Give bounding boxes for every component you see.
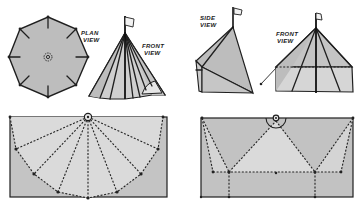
front-view-label-2: VIEW	[144, 50, 162, 56]
front-view-label-1: FRONT	[276, 31, 299, 37]
plan-view-label-2: VIEW	[83, 37, 101, 43]
side-view-label-2: VIEW	[200, 22, 218, 28]
plan-view-label-1: PLAN	[81, 30, 99, 36]
guy-peg	[260, 83, 263, 86]
side-end-wall	[196, 61, 202, 92]
wall-tent-pattern	[200, 115, 355, 198]
front-view-label-1: FRONT	[142, 43, 165, 49]
flag-icon	[125, 17, 134, 27]
bell-tent-plan-view: PLAN VIEW	[8, 16, 101, 99]
pole-hole-center	[275, 117, 277, 119]
pole-hole-center	[87, 116, 89, 118]
wall-tent-side-view: SIDE VIEW	[196, 7, 253, 93]
front-view-label-2: VIEW	[277, 38, 295, 44]
guy-rope	[261, 67, 277, 84]
side-view-label-1: SIDE	[200, 15, 216, 21]
bell-tent-pattern	[9, 113, 167, 199]
bell-tent-front-view: FRONT VIEW	[89, 16, 165, 99]
flag-icon	[316, 13, 322, 20]
flag-icon	[234, 8, 242, 15]
wall-tent-front-view: FRONT VIEW	[260, 13, 353, 93]
tent-diagram: PLAN VIEW FRONT VIEW SIDE VIE	[0, 0, 361, 206]
